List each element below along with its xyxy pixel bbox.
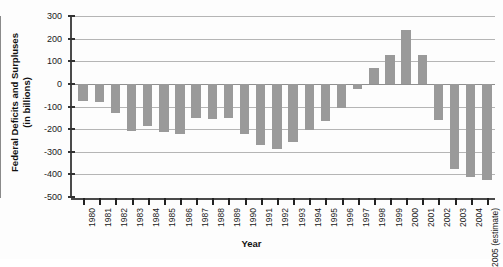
y-axis-tick-label: -300 <box>28 147 62 157</box>
x-axis-tick-mark <box>164 198 166 205</box>
x-axis-tick-label: 2001 <box>426 208 436 227</box>
x-axis-tick-mark <box>245 198 247 205</box>
gridline <box>75 174 495 175</box>
x-axis-tick-mark <box>471 198 473 205</box>
bar <box>143 84 152 126</box>
y-axis-tick-label: 0 <box>28 79 62 89</box>
x-axis-tick-label: 1985 <box>167 208 177 227</box>
x-axis-tick-mark <box>212 198 214 205</box>
x-axis-tick-mark <box>487 198 489 205</box>
y-axis-tick-mark <box>68 151 75 153</box>
gridline <box>75 152 495 153</box>
x-axis-title: Year <box>0 238 503 249</box>
x-axis-tick-mark <box>115 198 117 205</box>
bar <box>78 84 87 101</box>
x-axis-tick-mark <box>180 198 182 205</box>
y-axis-tick-label: 300 <box>28 11 62 21</box>
bar <box>224 84 233 119</box>
x-axis-tick-mark <box>406 198 408 205</box>
plot-area <box>75 16 495 197</box>
x-axis-tick-mark <box>228 198 230 205</box>
y-axis-tick-labels: 3002001000-100-200-300-400-500 <box>28 16 62 198</box>
y-axis-tick-label: -100 <box>28 102 62 112</box>
y-axis-tick-mark <box>68 38 75 40</box>
x-axis-tick-mark <box>99 198 101 205</box>
bar <box>434 84 443 120</box>
x-axis-tick-label: 2000 <box>410 208 420 227</box>
bar <box>95 84 104 102</box>
bar <box>127 84 136 131</box>
x-axis-tick-mark <box>148 198 150 205</box>
y-axis-tick-mark <box>68 15 75 17</box>
plot-left-border <box>0 16 1 198</box>
bar <box>401 30 410 83</box>
x-axis-tick-label: 1982 <box>119 208 129 227</box>
bar <box>337 84 346 108</box>
x-axis-tick-label: 1980 <box>87 208 97 227</box>
y-axis-tick-label: -400 <box>28 169 62 179</box>
x-axis-tick-label: 1991 <box>264 208 274 227</box>
x-axis-tick-mark <box>390 198 392 205</box>
bar <box>208 84 217 119</box>
x-axis-tick-label: 1989 <box>232 208 242 227</box>
bar <box>111 84 120 113</box>
gridline <box>75 84 495 85</box>
bar <box>450 84 459 169</box>
x-axis-tick-mark <box>374 198 376 205</box>
x-axis-tick-mark <box>261 198 263 205</box>
x-axis-tick-label: 1995 <box>329 208 339 227</box>
x-axis-tick-label: 1986 <box>184 208 194 227</box>
bar <box>240 84 249 134</box>
bar <box>482 84 491 181</box>
x-axis-tick-label: 1984 <box>151 208 161 227</box>
x-axis-tick-label: 2003 <box>458 208 468 227</box>
x-axis-tick-label: 1996 <box>345 208 355 227</box>
x-axis-tick-label: 2005 (estimate) <box>490 208 500 267</box>
y-axis-tick-mark <box>68 196 75 198</box>
y-axis-tick-label: -500 <box>28 192 62 202</box>
x-axis-tick-label: 1999 <box>394 208 404 227</box>
x-axis-tick-mark <box>196 198 198 205</box>
x-axis-tick-label: 1997 <box>361 208 371 227</box>
bar <box>256 84 265 145</box>
gridline <box>75 39 495 40</box>
gridline <box>75 61 495 62</box>
bar <box>418 55 427 84</box>
y-axis-tick-mark <box>68 83 75 85</box>
bar <box>272 84 281 150</box>
x-axis-tick-mark <box>455 198 457 205</box>
y-axis-tick-mark <box>68 60 75 62</box>
y-axis-tick-mark <box>68 106 75 108</box>
y-axis-tick-label: 200 <box>28 34 62 44</box>
bar <box>385 55 394 84</box>
x-axis-tick-label: 1987 <box>200 208 210 227</box>
x-axis-tick-mark <box>342 198 344 205</box>
x-axis-tick-label: 1981 <box>103 208 113 227</box>
x-axis-tick-label: 1994 <box>313 208 323 227</box>
x-axis-tick-mark <box>83 198 85 205</box>
x-axis-tick-mark <box>358 198 360 205</box>
x-axis-tick-mark <box>325 198 327 205</box>
bar <box>466 84 475 177</box>
y-axis-tick-label: 100 <box>28 56 62 66</box>
x-axis-tick-mark <box>132 198 134 205</box>
x-axis-tick-mark <box>422 198 424 205</box>
bar <box>369 68 378 84</box>
bar <box>353 84 362 89</box>
x-axis-tick-mark <box>293 198 295 205</box>
x-axis-tick-label: 2002 <box>442 208 452 227</box>
x-axis-tick-label: 1993 <box>297 208 307 227</box>
gridline <box>75 107 495 108</box>
bar <box>288 84 297 142</box>
x-axis-tick-label: 1988 <box>216 208 226 227</box>
bar <box>305 84 314 130</box>
y-axis-tick-mark <box>68 173 75 175</box>
gridline <box>75 16 495 17</box>
y-axis-title-line1: Federal Deficits and Surpluses <box>9 33 20 172</box>
y-axis-tick-label: -200 <box>28 124 62 134</box>
x-axis-tick-mark <box>309 198 311 205</box>
bar <box>321 84 330 121</box>
x-axis-tick-label: 1990 <box>248 208 258 227</box>
x-axis-tick-label: 1983 <box>135 208 145 227</box>
